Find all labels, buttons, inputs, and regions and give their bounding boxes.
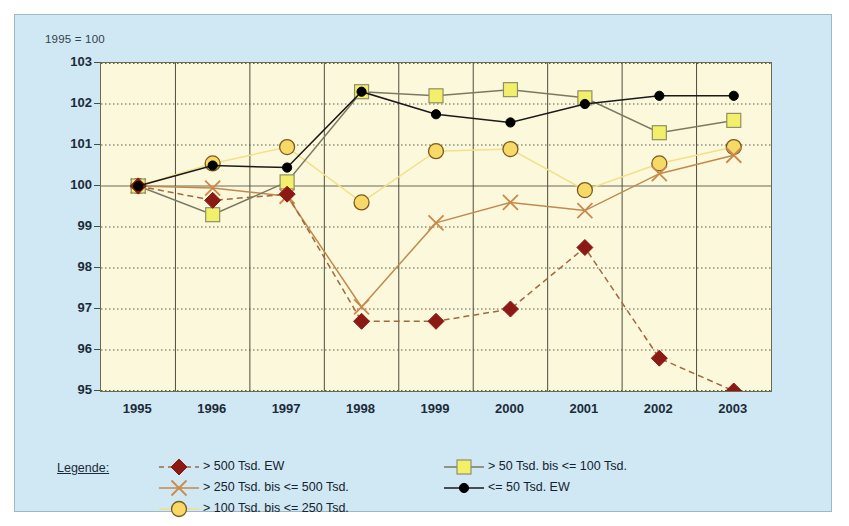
y-tick-mark [94, 390, 100, 391]
series-1 [131, 148, 742, 315]
plot-area [100, 62, 772, 392]
y-tick-mark [94, 349, 100, 350]
y-tick-mark [94, 62, 100, 63]
legend-label: > 250 Tsd. bis <= 500 Tsd. [203, 480, 349, 494]
y-tick-mark [94, 103, 100, 104]
index-base-note: 1995 = 100 [45, 33, 105, 45]
y-tick-label: 103 [58, 54, 92, 69]
chart-frame: 1995 = 100 9596979899100101102103 199519… [14, 14, 832, 512]
y-tick-label: 96 [58, 341, 92, 356]
y-tick-label: 101 [58, 136, 92, 151]
y-tick-label: 99 [58, 218, 92, 233]
legend-title: Legende: [57, 461, 109, 475]
y-tick-mark [94, 185, 100, 186]
legend-label: > 50 Tsd. bis <= 100 Tsd. [488, 459, 627, 473]
y-tick-label: 98 [58, 259, 92, 274]
chart-svg [101, 63, 771, 391]
legend-marker-dot-icon [442, 479, 486, 497]
legend-label: > 100 Tsd. bis <= 250 Tsd. [203, 501, 349, 515]
y-tick-mark [94, 267, 100, 268]
y-tick-label: 97 [58, 300, 92, 315]
y-tick-mark [94, 144, 100, 145]
y-tick-label: 95 [58, 382, 92, 397]
y-tick-label: 102 [58, 95, 92, 110]
x-tick-label: 2002 [623, 401, 693, 416]
x-tick-label: 1999 [400, 401, 470, 416]
x-tick-label: 2001 [549, 401, 619, 416]
x-tick-label: 1998 [326, 401, 396, 416]
x-tick-label: 2000 [474, 401, 544, 416]
legend-marker-circle-icon [157, 500, 201, 518]
legend-marker-cross-icon [157, 479, 201, 497]
legend-label: > 500 Tsd. EW [203, 459, 284, 473]
chart-legend: Legende: > 500 Tsd. EW> 250 Tsd. bis <= … [57, 458, 797, 520]
x-tick-label: 1996 [177, 401, 247, 416]
y-tick-label: 100 [58, 177, 92, 192]
legend-label: <= 50 Tsd. EW [488, 480, 570, 494]
legend-marker-square-icon [442, 458, 486, 476]
legend-marker-diamond-icon [157, 458, 201, 476]
x-tick-label: 1995 [102, 401, 172, 416]
x-tick-label: 1997 [251, 401, 321, 416]
y-tick-mark [94, 308, 100, 309]
y-tick-mark [94, 226, 100, 227]
x-tick-label: 2003 [698, 401, 768, 416]
